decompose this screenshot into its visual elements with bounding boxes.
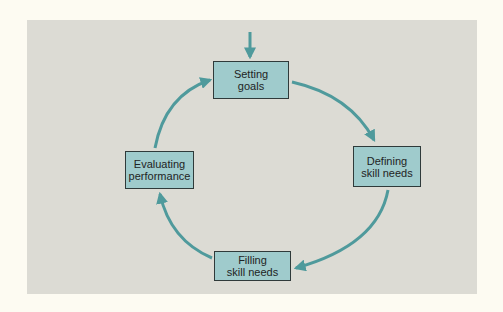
node-label: Filling skill needs — [227, 254, 278, 278]
node-filling-skill-needs: Filling skill needs — [214, 251, 291, 281]
arrow-filling-to-evaluating — [160, 194, 212, 258]
node-evaluating-performance: Evaluating performance — [125, 151, 194, 189]
node-defining-skill-needs: Defining skill needs — [353, 146, 421, 187]
node-label: Evaluating performance — [129, 158, 191, 182]
arrow-evaluating-to-setting — [155, 80, 210, 148]
node-label: Setting goals — [234, 68, 268, 92]
node-setting-goals: Setting goals — [213, 61, 289, 99]
arrow-defining-to-filling — [296, 190, 388, 268]
arrow-setting-to-defining — [292, 82, 374, 140]
node-label: Defining skill needs — [361, 155, 412, 179]
